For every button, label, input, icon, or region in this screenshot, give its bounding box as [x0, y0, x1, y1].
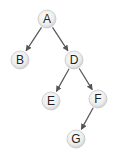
node-label: G	[71, 132, 80, 146]
node-g: G	[67, 130, 85, 148]
node-label: B	[16, 53, 24, 67]
edge-a-b	[26, 27, 41, 50]
edge-d-f	[79, 69, 92, 90]
node-label: D	[70, 53, 79, 67]
edge-a-d	[52, 27, 67, 50]
node-f: F	[89, 90, 107, 108]
edge-d-e	[56, 69, 69, 92]
node-label: E	[47, 94, 55, 108]
tree-diagram: ABDEFG	[0, 0, 117, 158]
node-b: B	[11, 51, 29, 69]
node-label: A	[43, 12, 51, 26]
edges-group	[26, 27, 93, 129]
node-label: F	[94, 92, 101, 106]
node-e: E	[42, 92, 60, 110]
nodes-group: ABDEFG	[11, 10, 107, 148]
edge-f-g	[81, 108, 93, 130]
node-d: D	[65, 51, 83, 69]
node-a: A	[38, 10, 56, 28]
